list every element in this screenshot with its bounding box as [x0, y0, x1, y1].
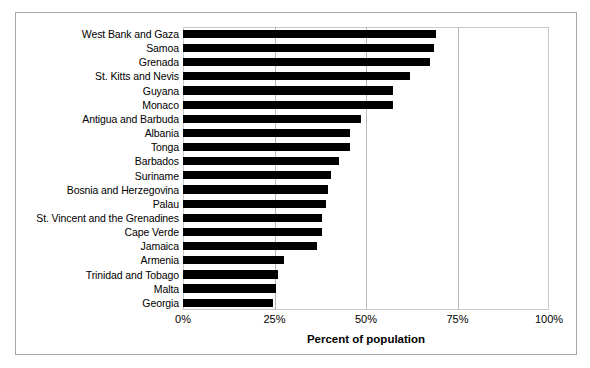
x-axis-tick-labels: 0%25%50%75%100% [183, 313, 549, 329]
bar-row [183, 140, 549, 154]
x-axis-title: Percent of population [183, 333, 549, 345]
bar-row [183, 69, 549, 83]
category-label: Barbados [16, 154, 179, 168]
bar-row [183, 183, 549, 197]
bar-row [183, 98, 549, 112]
bar [183, 214, 322, 222]
x-tick-label: 100% [535, 313, 563, 325]
category-label: Palau [16, 197, 179, 211]
bar-row [183, 197, 549, 211]
bar [183, 101, 393, 109]
bar [183, 129, 350, 137]
bar [183, 157, 339, 165]
category-label: West Bank and Gaza [16, 27, 179, 41]
bar-row [183, 211, 549, 225]
bar-row [183, 253, 549, 267]
x-tick-label: 25% [263, 313, 285, 325]
x-tick-label: 50% [355, 313, 377, 325]
category-label: St. Kitts and Nevis [16, 69, 179, 83]
category-label: Cape Verde [16, 225, 179, 239]
category-label: Antigua and Barbuda [16, 112, 179, 126]
bar [183, 270, 278, 278]
category-axis-labels: West Bank and GazaSamoaGrenadaSt. Kitts … [16, 27, 179, 310]
bar [183, 242, 317, 250]
bar [183, 200, 326, 208]
bar [183, 299, 273, 307]
bar [183, 44, 434, 52]
category-label: Bosnia and Herzegovina [16, 183, 179, 197]
x-tick-label: 75% [446, 313, 468, 325]
bar-row [183, 112, 549, 126]
bar [183, 115, 361, 123]
category-label: St. Vincent and the Grenadines [16, 211, 179, 225]
bar-series [183, 27, 549, 310]
bar-row [183, 41, 549, 55]
bar-row [183, 282, 549, 296]
bar [183, 171, 331, 179]
category-label: Guyana [16, 84, 179, 98]
category-label: Grenada [16, 55, 179, 69]
category-label: Suriname [16, 169, 179, 183]
bar-row [183, 154, 549, 168]
bar-row [183, 169, 549, 183]
bar-row [183, 239, 549, 253]
category-label: Trinidad and Tobago [16, 268, 179, 282]
bar [183, 30, 436, 38]
category-label: Georgia [16, 296, 179, 310]
category-label: Tonga [16, 140, 179, 154]
bar [183, 143, 350, 151]
category-label: Armenia [16, 253, 179, 267]
x-tick-label: 0% [175, 313, 191, 325]
bar-chart: West Bank and GazaSamoaGrenadaSt. Kitts … [16, 13, 578, 356]
bar [183, 72, 410, 80]
bar [183, 58, 430, 66]
category-label: Albania [16, 126, 179, 140]
bar-row [183, 126, 549, 140]
bar-row [183, 225, 549, 239]
bar [183, 86, 393, 94]
bar [183, 284, 276, 292]
category-label: Monaco [16, 98, 179, 112]
bar [183, 256, 284, 264]
bar [183, 228, 322, 236]
category-label: Jamaica [16, 239, 179, 253]
bar [183, 185, 328, 193]
bar-row [183, 84, 549, 98]
category-label: Samoa [16, 41, 179, 55]
figure-frame: West Bank and GazaSamoaGrenadaSt. Kitts … [15, 12, 577, 355]
bar-row [183, 27, 549, 41]
bar-row [183, 296, 549, 310]
category-label: Malta [16, 282, 179, 296]
bar-row [183, 268, 549, 282]
bar-row [183, 55, 549, 69]
